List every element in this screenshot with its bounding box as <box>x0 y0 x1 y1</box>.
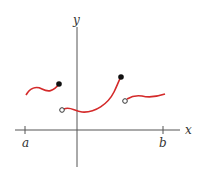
x-axis-label: x <box>185 123 192 137</box>
tick-label-a: a <box>22 136 29 150</box>
open-endpoint-icon <box>123 99 128 104</box>
curve-left-piece <box>26 84 59 95</box>
open-endpoint-icon <box>60 108 65 113</box>
curve-right-piece <box>127 94 165 99</box>
closed-endpoint-icon <box>118 74 124 80</box>
function-graph: a b x y <box>0 0 204 174</box>
tick-label-b: b <box>159 136 167 150</box>
curve-middle-piece <box>64 77 121 112</box>
closed-endpoint-icon <box>56 81 62 87</box>
y-axis-label: y <box>72 13 80 27</box>
